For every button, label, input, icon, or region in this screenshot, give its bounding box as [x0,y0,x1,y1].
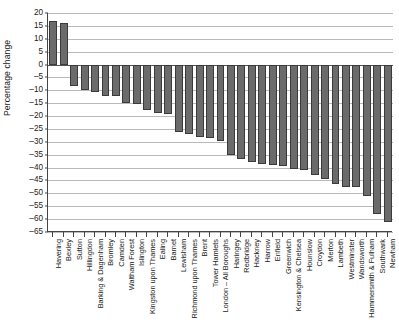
x-tick-mark [84,232,85,237]
bar [384,65,392,222]
x-tick-mark [178,232,179,237]
x-tick-label: Lewisham [180,239,187,272]
bar [237,65,245,159]
x-tick-mark [355,232,356,237]
x-tick-mark [146,232,147,237]
x-tick-label: Waltham Forest [128,239,135,290]
x-tick-label: Greenwich [285,239,292,274]
x-tick-label: Harrow [264,239,271,263]
x-tick-label: Bexley [65,239,72,261]
bar [217,65,225,141]
x-tick-mark [282,232,283,237]
bar [196,65,204,137]
bar [248,65,256,163]
bar [70,65,78,87]
x-tick-label: Sutton [76,239,83,260]
bar [49,21,57,65]
x-tick-mark [387,232,388,237]
x-tick-label: Enfield [274,239,281,261]
x-tick-label: Richmond upon Thames [191,239,198,318]
x-tick-mark [125,232,126,237]
x-tick-label: Croydon [316,239,323,267]
bar [91,65,99,93]
x-tick-mark [94,232,95,237]
x-tick-label: Brent [201,239,208,256]
x-tick-label: Southwark [379,239,386,273]
x-tick-label: Hounslow [306,239,313,271]
bar [164,65,172,114]
bar-series [48,13,393,232]
x-tick-mark [73,232,74,237]
x-tick-mark [293,232,294,237]
x-tick-mark [105,232,106,237]
x-tick-mark [209,232,210,237]
x-tick-mark [366,232,367,237]
bar [342,65,350,187]
x-tick-label: Bromley [107,239,114,266]
bar [185,65,193,135]
x-tick-label: Lambeth [337,239,344,267]
x-tick-mark [314,232,315,237]
bar [175,65,183,132]
bar [112,65,120,97]
bar [363,65,371,196]
x-tick-label: Kensington & Chelsea [295,239,302,311]
x-tick-mark [240,232,241,237]
x-tick-mark [230,232,231,237]
bar [311,65,319,176]
bar [332,65,340,185]
x-tick-mark [52,232,53,237]
x-tick-label: Hackney [253,239,260,267]
bar [206,65,214,138]
x-tick-label: Hammersmith & Fulham [368,239,375,318]
x-tick-mark [199,232,200,237]
x-tick-mark [345,232,346,237]
x-tick-label: Wandsworth [358,239,365,279]
bar [290,65,298,169]
x-tick-mark [251,232,252,237]
x-tick-label: Redbridge [243,239,250,273]
x-tick-label: Islington [138,239,145,266]
x-tick-label: Havering [55,239,62,268]
x-tick-mark [335,232,336,237]
x-tick-mark [188,232,189,237]
bar [258,65,266,164]
x-tick-label: London – All Boroughs [222,239,229,312]
x-tick-label: Tower Hamlets [212,239,219,287]
x-tick-mark [324,232,325,237]
y-axis-title: Percentage change [2,40,12,116]
bar [373,65,381,214]
x-tick-label: Westminster [348,239,355,279]
x-axis-ticks [47,232,392,237]
x-tick-label: Ealing [159,239,166,259]
bar [269,65,277,165]
x-tick-mark [376,232,377,237]
x-axis-labels: HaveringBexleySuttonHillingdonBarking & … [47,239,392,334]
x-tick-mark [63,232,64,237]
x-tick-label: Haringey [233,239,240,268]
x-tick-label: Barking & Dagenham [97,239,104,308]
bar [102,65,110,97]
bar [143,65,151,110]
x-tick-mark [115,232,116,237]
x-tick-mark [261,232,262,237]
bar [227,65,235,155]
x-tick-label: Kingston upon Thames [149,239,156,314]
x-tick-mark [157,232,158,237]
x-tick-label: Hillingdon [86,239,93,271]
bar [300,65,308,171]
x-tick-mark [272,232,273,237]
bar [352,65,360,187]
x-tick-mark [220,232,221,237]
x-tick-mark [136,232,137,237]
bar [154,65,162,114]
plot-area: 20151050–5–10–15–20–25–30–35–40–45–50–55… [47,13,392,232]
x-tick-mark [303,232,304,237]
bar [60,23,68,65]
x-tick-label: Camden [118,239,125,267]
x-tick-label: Barnet [170,239,177,260]
chart-screenshot: Percentage change 20151050–5–10–15–20–25… [0,0,399,334]
bar [321,65,329,180]
x-tick-mark [167,232,168,237]
bar [122,65,130,104]
